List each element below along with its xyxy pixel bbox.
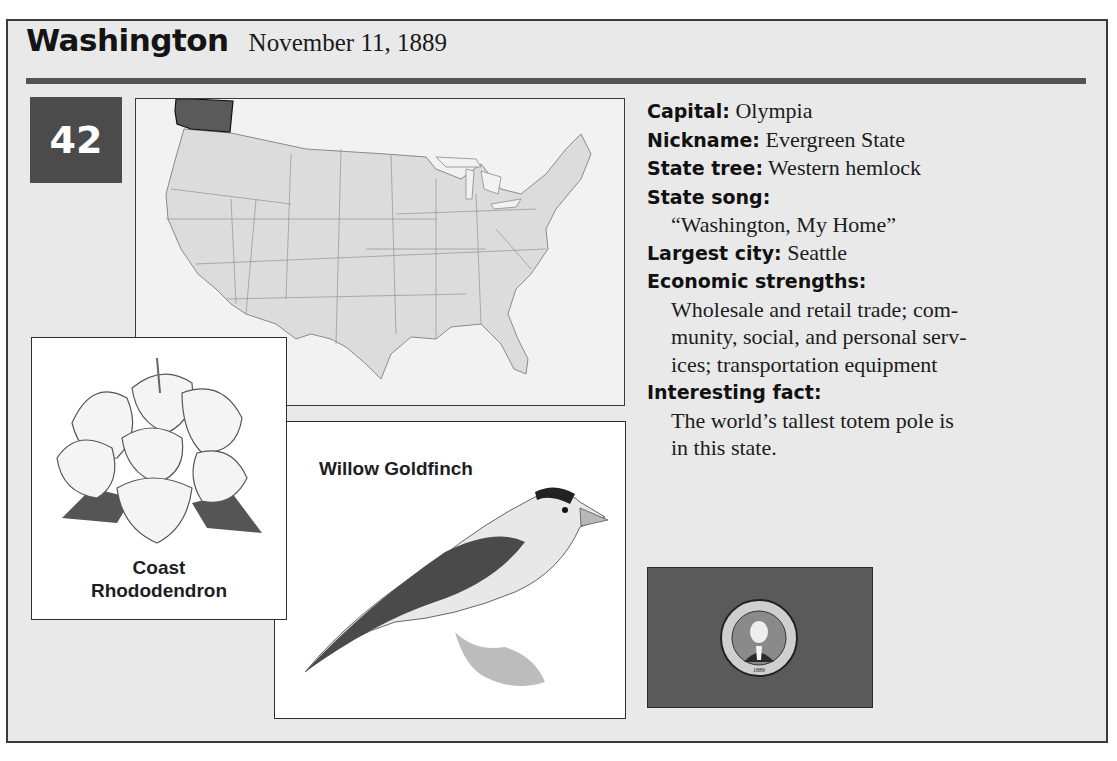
fact-state-tree: State tree: Western hemlock [647, 154, 1097, 183]
state-flower-label-line2: Rhododendron [32, 579, 286, 602]
fact-list: Capital: Olympia Nickname: Evergreen Sta… [647, 97, 1097, 462]
fact-economic-strengths-label: Economic strengths: [647, 267, 1097, 296]
state-name: Washington [26, 22, 229, 58]
fact-capital: Capital: Olympia [647, 97, 1097, 126]
fact-economic-strengths-line1: Wholesale and retail trade; com- [647, 296, 1097, 324]
fact-economic-strengths-line2: munity, social, and personal serv- [647, 323, 1097, 351]
fact-nickname: Nickname: Evergreen State [647, 126, 1097, 155]
state-flower-panel: Coast Rhododendron [31, 337, 287, 620]
fact-interesting-line2: in this state. [647, 434, 1097, 462]
state-bird-panel: Willow Goldfinch [274, 421, 626, 719]
fact-state-song-label: State song: [647, 183, 1097, 212]
fact-state-song-value: “Washington, My Home” [647, 211, 1097, 239]
state-flower-label: Coast Rhododendron [32, 556, 286, 602]
state-flag: 1889 [647, 567, 873, 708]
fact-largest-city: Largest city: Seattle [647, 239, 1097, 268]
seal-year: 1889 [753, 667, 765, 673]
admission-date: November 11, 1889 [249, 29, 447, 57]
goldfinch-illustration-icon [275, 422, 624, 717]
fact-interesting-line1: The world’s tallest totem pole is [647, 407, 1097, 435]
fact-economic-strengths-line3: ices; transportation equipment [647, 351, 1097, 379]
state-flower-label-line1: Coast [32, 556, 286, 579]
state-seal-icon: 1889 [719, 598, 799, 678]
rhododendron-illustration-icon [32, 343, 285, 553]
statehood-order-badge: 42 [30, 97, 122, 183]
fact-interesting-label: Interesting fact: [647, 378, 1097, 407]
title-row: Washington November 11, 1889 [26, 22, 447, 72]
title-rule [26, 78, 1086, 84]
